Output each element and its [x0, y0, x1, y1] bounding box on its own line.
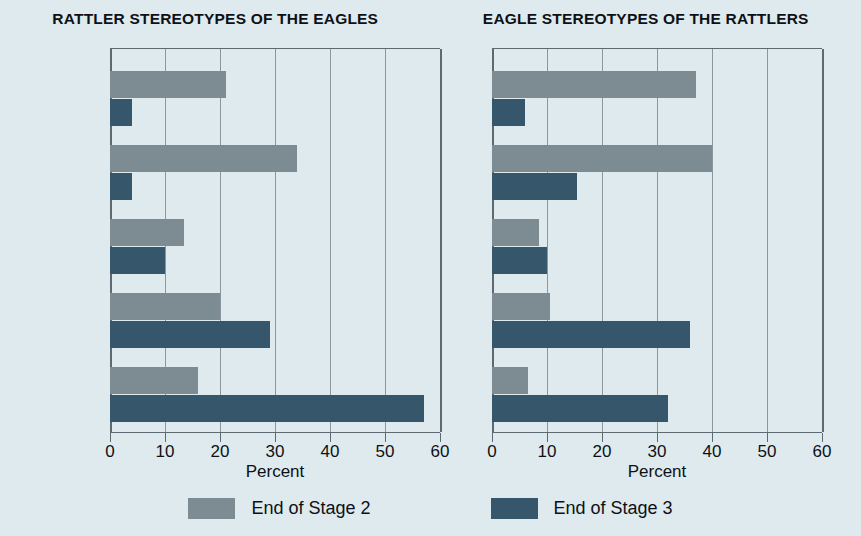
panel-eagle-stereotypes: EAGLE STEREOTYPES OF THE RATTLERS 010203…: [431, 0, 861, 470]
tick-label-40: 40: [703, 442, 722, 462]
bar-stage3: [110, 247, 165, 274]
tick-label-20: 20: [211, 442, 230, 462]
bar-stage2: [492, 71, 696, 98]
tick-label-30: 30: [648, 442, 667, 462]
panel-rattler-stereotypes: RATTLER STEREOTYPES OF THE EAGLES Veryun…: [0, 0, 431, 470]
tick-mark-60: [822, 433, 823, 442]
bar-group: [110, 145, 440, 200]
tick-label-40: 40: [321, 442, 340, 462]
legend-item-stage3: End of Stage 3: [491, 498, 673, 519]
tick-label-50: 50: [758, 442, 777, 462]
bar-group: [492, 145, 822, 200]
tick-mark-40: [330, 433, 331, 442]
bar-group: [492, 367, 822, 422]
tick-label-20: 20: [593, 442, 612, 462]
tick-mark-20: [602, 433, 603, 442]
tick-mark-10: [547, 433, 548, 442]
bar-group: [110, 71, 440, 126]
tick-mark-10: [165, 433, 166, 442]
bar-stage2: [110, 145, 297, 172]
bar-group: [110, 293, 440, 348]
bar-group: [492, 219, 822, 274]
bar-group: [110, 367, 440, 422]
tick-mark-40: [712, 433, 713, 442]
bar-stage2: [492, 367, 528, 394]
bar-stage3: [110, 173, 132, 200]
plot-area-right: [492, 48, 822, 433]
bar-stage2: [110, 219, 184, 246]
legend-swatch-stage2: [188, 498, 235, 519]
bar-stage2: [110, 367, 198, 394]
tick-label-10: 10: [156, 442, 175, 462]
tick-label-60: 60: [813, 442, 832, 462]
stereotypes-bar-chart-figure: RATTLER STEREOTYPES OF THE EAGLES Veryun…: [0, 0, 861, 536]
bar-stage3: [492, 395, 668, 422]
legend-label-stage3: End of Stage 3: [554, 498, 673, 519]
x-axis-label-right: Percent: [492, 462, 822, 482]
bar-stage3: [110, 395, 424, 422]
x-axis-ticks-left: 0102030405060: [110, 433, 440, 443]
gridline-60: [822, 49, 824, 432]
tick-label-50: 50: [376, 442, 395, 462]
bar-stage3: [492, 321, 690, 348]
tick-mark-30: [657, 433, 658, 442]
bar-group: [110, 219, 440, 274]
bar-group: [492, 71, 822, 126]
x-axis-label-left: Percent: [110, 462, 440, 482]
chart-panels: RATTLER STEREOTYPES OF THE EAGLES Veryun…: [0, 0, 861, 470]
bar-group: [492, 293, 822, 348]
tick-mark-0: [110, 433, 111, 442]
tick-mark-0: [492, 433, 493, 442]
legend-item-stage2: End of Stage 2: [188, 498, 370, 519]
bar-stage2: [492, 219, 539, 246]
bar-stage3: [492, 247, 547, 274]
tick-label-0: 0: [487, 442, 496, 462]
x-axis-ticks-right: 0102030405060: [492, 433, 822, 443]
legend-swatch-stage3: [491, 498, 538, 519]
tick-label-10: 10: [538, 442, 557, 462]
tick-mark-50: [767, 433, 768, 442]
bar-stage3: [110, 99, 132, 126]
plot-area-left: [110, 48, 440, 433]
panel-title-right: EAGLE STEREOTYPES OF THE RATTLERS: [431, 10, 861, 28]
bar-stage2: [110, 71, 226, 98]
bar-stage3: [110, 321, 270, 348]
bar-stage2: [492, 293, 550, 320]
bar-stage2: [110, 293, 220, 320]
bar-stage3: [492, 173, 577, 200]
tick-mark-30: [275, 433, 276, 442]
chart-legend: End of Stage 2 End of Stage 3: [0, 492, 861, 524]
panel-title-left: RATTLER STEREOTYPES OF THE EAGLES: [0, 10, 431, 28]
tick-mark-50: [385, 433, 386, 442]
tick-label-30: 30: [266, 442, 285, 462]
legend-label-stage2: End of Stage 2: [251, 498, 370, 519]
tick-label-0: 0: [105, 442, 114, 462]
tick-mark-20: [220, 433, 221, 442]
bar-stage3: [492, 99, 525, 126]
bar-stage2: [492, 145, 712, 172]
